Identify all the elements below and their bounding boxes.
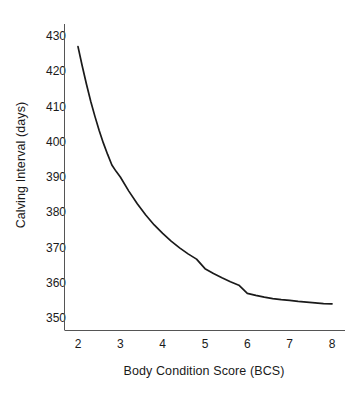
data-series-line — [78, 47, 332, 304]
plot-area — [0, 0, 355, 393]
chart-figure: Calving Interval (days) Body Condition S… — [0, 0, 355, 393]
